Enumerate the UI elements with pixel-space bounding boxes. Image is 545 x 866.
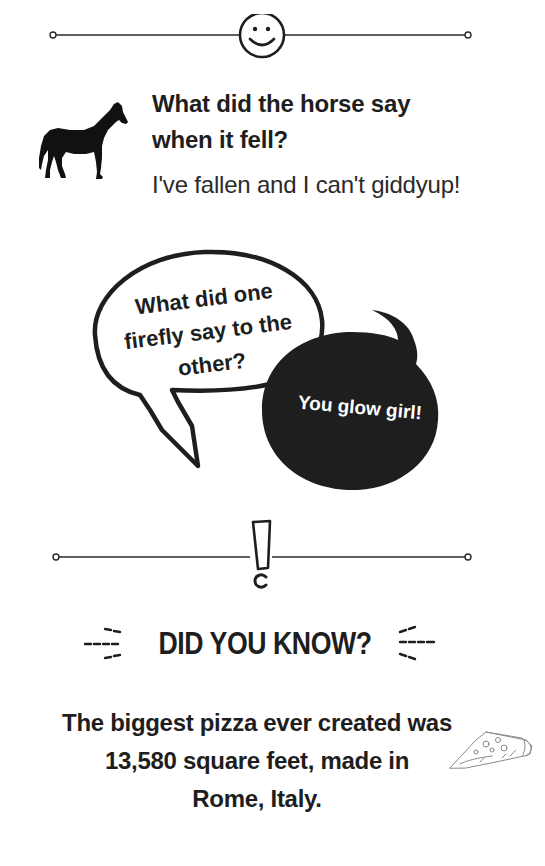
horse-joke-question-line-1: What did the horse say <box>152 86 512 122</box>
divider-line-left <box>50 32 239 38</box>
horse-joke-question: What did the horse say when it fell? <box>152 86 512 158</box>
fact-line-2: 13,580 square feet, made in <box>18 742 496 780</box>
right-burst-lines-icon <box>396 622 446 662</box>
left-burst-lines-icon <box>80 624 130 664</box>
fact-line-1: The biggest pizza ever created was <box>18 704 496 742</box>
divider-line-right <box>285 32 471 38</box>
horse-joke-question-line-2: when it fell? <box>152 122 512 158</box>
smiley-face-icon <box>240 14 284 57</box>
did-you-know-title: DID YOU KNOW? <box>158 622 373 666</box>
exclamation-mark-icon <box>253 521 270 587</box>
did-you-know-fact: The biggest pizza ever created was 13,58… <box>18 704 496 818</box>
divider-line-left <box>53 554 250 560</box>
pizza-slice-icon <box>446 726 536 774</box>
middle-divider <box>0 518 545 594</box>
divider-line-right <box>272 554 471 560</box>
top-divider <box>0 14 545 66</box>
fact-line-3: Rome, Italy. <box>18 780 496 818</box>
horse-joke-answer: I've fallen and I can't giddyup! <box>152 168 532 202</box>
horse-silhouette-icon <box>36 100 132 184</box>
